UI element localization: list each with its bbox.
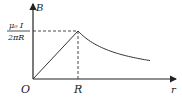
y-tick-label-denominator: 2πR [7,33,24,42]
y-tick-label-numerator: μ₀ I [9,21,24,30]
x-axis-label: r [171,84,177,95]
origin-label: O [21,83,30,96]
y-axis-label: B [35,2,43,13]
inside-linear-segment [33,31,78,79]
b-vs-r-graph: B r O R μ₀ I 2πR [0,0,182,99]
outside-inverse-curve [78,31,150,61]
x-tick-label-R: R [73,83,82,96]
